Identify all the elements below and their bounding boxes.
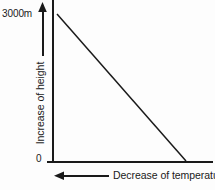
x-axis-title: Decrease of temperature bbox=[113, 169, 215, 181]
plot-area bbox=[0, 0, 215, 190]
data-series-line bbox=[57, 14, 186, 161]
line-chart-figure: 3000m 0 Increase of height Decrease of t… bbox=[0, 0, 215, 190]
y-axis-title: Increase of height bbox=[34, 51, 46, 155]
y-axis-arrow-shaft bbox=[42, 8, 44, 56]
x-axis-arrow-shaft bbox=[57, 175, 109, 177]
